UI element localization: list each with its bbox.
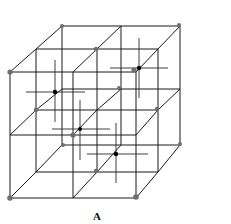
corner-atom-icon xyxy=(7,195,13,201)
corner-atom-icon xyxy=(61,143,65,147)
depth-edge xyxy=(158,145,180,172)
cubic-lattice-diagram xyxy=(0,0,231,224)
depth-edge xyxy=(136,110,158,135)
depth-edge xyxy=(97,89,121,110)
depth-edge xyxy=(10,49,36,72)
corner-atom-icon xyxy=(155,107,159,111)
center-atom-icon xyxy=(114,152,118,156)
corner-atom-icon xyxy=(117,86,121,90)
depth-edge xyxy=(36,145,62,172)
depth-edge xyxy=(158,26,180,49)
figure-label: A xyxy=(90,210,104,222)
depth-edge xyxy=(10,110,36,135)
depth-edge xyxy=(73,49,97,72)
depth-edge xyxy=(36,26,62,49)
corner-atom-icon xyxy=(133,194,139,200)
center-atom-icon xyxy=(53,90,57,94)
corner-atom-icon xyxy=(60,24,64,28)
corner-atom-icon xyxy=(34,108,38,112)
corner-atom-icon xyxy=(131,67,136,72)
corner-atom-icon xyxy=(94,169,98,173)
corner-atom-icon xyxy=(178,142,182,146)
center-atom-icon xyxy=(137,66,141,70)
depth-edge xyxy=(97,26,121,49)
corner-atom-icon xyxy=(70,132,75,137)
depth-edge xyxy=(73,110,97,135)
center-atom-icon xyxy=(78,127,82,131)
depth-edge xyxy=(73,172,97,198)
depth-edge xyxy=(136,172,158,198)
depth-edge xyxy=(10,172,36,198)
corner-atom-icon xyxy=(177,23,181,27)
depth-edge xyxy=(97,145,121,172)
corner-atom-icon xyxy=(94,47,98,51)
corner-atom-icon xyxy=(7,69,12,74)
depth-edge xyxy=(158,89,180,110)
